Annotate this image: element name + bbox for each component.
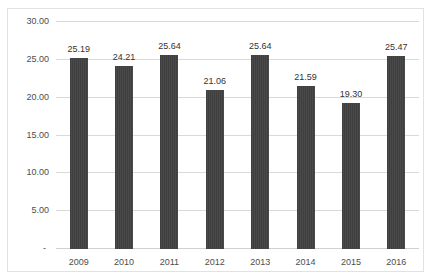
bar[interactable] bbox=[160, 55, 178, 249]
x-axis-tick-label: 2010 bbox=[114, 258, 134, 267]
bar-slot: 25.64 bbox=[238, 22, 283, 249]
x-axis-tick-label: 2015 bbox=[341, 258, 361, 267]
bar[interactable] bbox=[387, 56, 405, 249]
x-axis-tick-label: 2012 bbox=[205, 258, 225, 267]
bar[interactable] bbox=[70, 58, 88, 249]
bar-data-label: 25.64 bbox=[249, 42, 272, 51]
bar[interactable] bbox=[342, 103, 360, 249]
x-axis-tick-label: 2013 bbox=[250, 258, 270, 267]
bar[interactable] bbox=[297, 86, 315, 249]
bar[interactable] bbox=[206, 90, 224, 249]
bar-slot: 25.19 bbox=[56, 22, 101, 249]
y-axis-tick-label: 30.00 bbox=[26, 17, 49, 26]
bar[interactable] bbox=[115, 66, 133, 249]
y-axis-tick-label: 25.00 bbox=[26, 54, 49, 63]
plot-area: -5.0010.0015.0020.0025.0030.00 25.1924.2… bbox=[56, 22, 419, 249]
bar[interactable] bbox=[251, 55, 269, 249]
bar-slot: 25.47 bbox=[374, 22, 419, 249]
bar-data-label: 25.64 bbox=[158, 42, 181, 51]
y-axis-tick-label: 15.00 bbox=[26, 130, 49, 139]
bar-data-label: 21.06 bbox=[204, 77, 227, 86]
bar-slot: 21.06 bbox=[192, 22, 237, 249]
chart-frame: -5.0010.0015.0020.0025.0030.00 25.1924.2… bbox=[7, 8, 424, 272]
y-axis-tick-label: - bbox=[43, 244, 46, 253]
y-axis-tick-label: 20.00 bbox=[26, 92, 49, 101]
x-axis-tick-label: 2016 bbox=[386, 258, 406, 267]
cropped-title-fragment: ▁▁▁ ▁▁▁▁▁▁ ▁▁ bbox=[7, 0, 59, 5]
bar-slot: 24.21 bbox=[101, 22, 146, 249]
x-axis-tick-label: 2011 bbox=[160, 258, 179, 267]
bar-slot: 21.59 bbox=[283, 22, 328, 249]
bar-data-label: 25.47 bbox=[385, 43, 408, 52]
y-axis-tick-label: 10.00 bbox=[26, 168, 49, 177]
chart-screenshot: ▁▁▁ ▁▁▁▁▁▁ ▁▁ -5.0010.0015.0020.0025.003… bbox=[0, 0, 438, 280]
bar-slot: 25.64 bbox=[147, 22, 192, 249]
bar-data-label: 21.59 bbox=[294, 73, 317, 82]
bar-slot: 19.30 bbox=[328, 22, 373, 249]
y-axis-tick-label: 5.00 bbox=[31, 206, 49, 215]
bar-data-label: 25.19 bbox=[67, 45, 90, 54]
bar-series: 25.1924.2125.6421.0625.6421.5919.3025.47 bbox=[56, 22, 419, 249]
x-axis-tick-label: 2009 bbox=[69, 258, 89, 267]
bar-data-label: 24.21 bbox=[113, 53, 136, 62]
bar-data-label: 19.30 bbox=[340, 90, 363, 99]
x-axis-tick-label: 2014 bbox=[296, 258, 316, 267]
